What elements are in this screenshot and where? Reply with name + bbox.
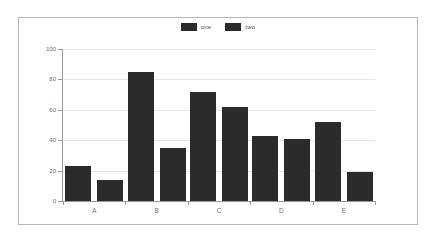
legend-item-two[interactable]: two — [225, 23, 255, 31]
y-axis-tick-label: 0 — [22, 198, 56, 204]
y-axis-tick-label: 60 — [22, 106, 56, 112]
gridline — [63, 49, 375, 50]
x-axis-tick — [313, 201, 314, 205]
x-axis-label-D: D — [279, 207, 284, 214]
y-axis-tick — [58, 140, 63, 141]
plot-area — [63, 49, 375, 201]
legend-item-one[interactable]: one — [181, 23, 212, 31]
bar-A-two[interactable] — [97, 180, 123, 201]
x-axis-tick — [188, 201, 189, 205]
bar-B-two[interactable] — [160, 148, 186, 201]
y-axis-tick — [58, 171, 63, 172]
y-axis-tick-label: 40 — [22, 137, 56, 143]
gridline — [63, 79, 375, 80]
x-axis-label-C: C — [217, 207, 222, 214]
y-axis-tick — [58, 49, 63, 50]
bar-D-two[interactable] — [284, 139, 310, 201]
x-axis-line — [62, 201, 375, 202]
bar-C-one[interactable] — [190, 92, 216, 201]
bar-E-one[interactable] — [315, 122, 341, 201]
bar-B-one[interactable] — [128, 72, 154, 201]
bar-E-two[interactable] — [347, 172, 373, 201]
bar-C-two[interactable] — [222, 107, 248, 201]
x-axis-tick — [63, 201, 64, 205]
y-axis-tick-label: 20 — [22, 167, 56, 173]
legend-label-two: two — [245, 23, 255, 31]
gridline — [63, 110, 375, 111]
x-axis-tick — [375, 201, 376, 205]
y-axis-tick — [58, 110, 63, 111]
bar-A-one[interactable] — [65, 166, 91, 201]
x-axis-label-A: A — [92, 207, 96, 214]
y-axis-labels: 020406080100 — [19, 49, 56, 202]
legend-label-one: one — [201, 23, 212, 31]
x-axis-label-E: E — [342, 207, 346, 214]
legend-swatch-two — [225, 23, 241, 31]
x-axis-tick — [250, 201, 251, 205]
legend-swatch-one — [181, 23, 197, 31]
y-axis-tick — [58, 79, 63, 80]
chart-legend: one two — [19, 23, 417, 31]
chart-frame: one two 020406080100 ABCDE — [18, 17, 418, 225]
y-axis-tick-label: 100 — [22, 46, 56, 52]
x-axis-label-B: B — [154, 207, 158, 214]
bar-D-one[interactable] — [252, 136, 278, 201]
x-axis-tick — [125, 201, 126, 205]
y-axis-tick-label: 80 — [22, 76, 56, 82]
